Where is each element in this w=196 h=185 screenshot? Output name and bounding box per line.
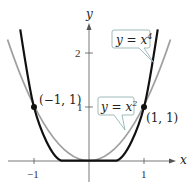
point-label-left: (−1, 1) [39, 93, 81, 107]
svg-text:y = x4: y = x4 [115, 32, 152, 47]
callout-x-squared: y = x2 [98, 97, 137, 130]
svg-text:y = x2: y = x2 [100, 99, 137, 114]
tick-label-x-neg1: −1 [27, 168, 39, 180]
callout-x-fourth: y = x4 [112, 30, 154, 63]
callout-x4-exponent: 4 [146, 32, 152, 41]
callout-x2-exponent: 2 [131, 99, 137, 108]
y-axis-label: y [85, 7, 93, 21]
point-label-right: (1, 1) [146, 111, 178, 125]
y-axis-arrow-icon [87, 23, 92, 30]
tick-label-y-2: 2 [75, 47, 81, 59]
tick-label-x-1: 1 [141, 168, 147, 180]
x-axis-label: x [180, 153, 187, 167]
point-neg1-1 [31, 104, 37, 110]
x-axis-arrow-icon [169, 159, 176, 164]
callout-x4-text: y = x [115, 33, 147, 47]
graph-canvas: −1 1 1 2 x y (−1, 1) (1, 1) y = x4 y = x… [0, 0, 196, 185]
point-1-1 [141, 104, 147, 110]
callout-x2-text: y = x [100, 100, 132, 114]
